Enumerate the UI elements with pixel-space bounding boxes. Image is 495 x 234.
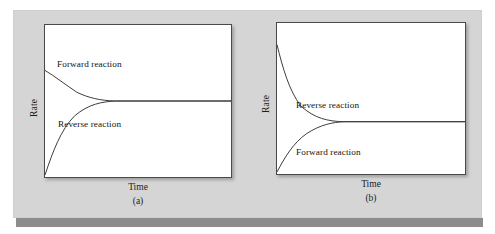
panel-b-y-axis-label: Rate <box>261 81 271 113</box>
panel-a-forward-curve <box>45 70 231 101</box>
panel-a-forward-reaction-label: Forward reaction <box>57 59 122 69</box>
panel-b-reverse-reaction-label: Reverse reaction <box>296 100 359 110</box>
panel-a-plot-area <box>44 24 232 178</box>
panel-b-x-axis-label: Time <box>328 179 414 189</box>
panel-a-reverse-curve <box>45 101 231 175</box>
panel-b: Rate Reverse reaction Forward reaction T… <box>245 0 495 234</box>
panel-a-caption: (a) <box>95 196 181 206</box>
panel-a-reverse-reaction-label: Reverse reaction <box>58 119 121 129</box>
panel-b-forward-reaction-label: Forward reaction <box>296 147 361 157</box>
panel-a-x-axis-label: Time <box>95 182 181 192</box>
panel-a-y-axis-label: Rate <box>29 85 39 117</box>
panel-b-reverse-curve <box>277 45 465 122</box>
figure-canvas: Rate Forward reaction Reverse reaction T… <box>0 0 495 234</box>
panel-a: Rate Forward reaction Reverse reaction T… <box>0 0 250 234</box>
panel-b-caption: (b) <box>328 193 414 203</box>
panel-a-curves <box>45 25 231 177</box>
